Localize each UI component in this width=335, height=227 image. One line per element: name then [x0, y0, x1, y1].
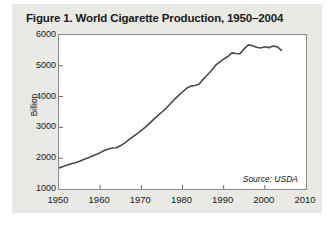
plot-area: Source: USDA — [58, 34, 307, 190]
line-chart-svg — [59, 35, 306, 189]
axis-tick-marks — [59, 66, 265, 189]
y-tick-label: 6000 — [22, 29, 56, 39]
x-tick-label: 1960 — [79, 194, 119, 205]
figure-title: Figure 1. World Cigarette Production, 19… — [26, 12, 283, 24]
production-line-series — [59, 45, 281, 168]
y-tick-label: 3000 — [22, 121, 56, 131]
y-tick-label: 4000 — [22, 91, 56, 101]
y-tick-label: 2000 — [22, 152, 56, 162]
y-axis-tick-labels: 100020003000400050006000 — [20, 34, 56, 190]
figure-panel: Figure 1. World Cigarette Production, 19… — [12, 4, 322, 213]
y-tick-label: 1000 — [22, 183, 56, 193]
x-tick-label: 1990 — [203, 194, 243, 205]
source-note: Source: USDA — [243, 174, 298, 184]
x-tick-label: 1980 — [162, 194, 202, 205]
x-tick-label: 2010 — [285, 194, 325, 205]
x-tick-label: 1950 — [38, 194, 78, 205]
x-tick-label: 2000 — [244, 194, 284, 205]
y-tick-label: 5000 — [22, 60, 56, 70]
x-axis-tick-labels: 1950196019701980199020002010 — [58, 194, 307, 208]
x-tick-label: 1970 — [120, 194, 160, 205]
